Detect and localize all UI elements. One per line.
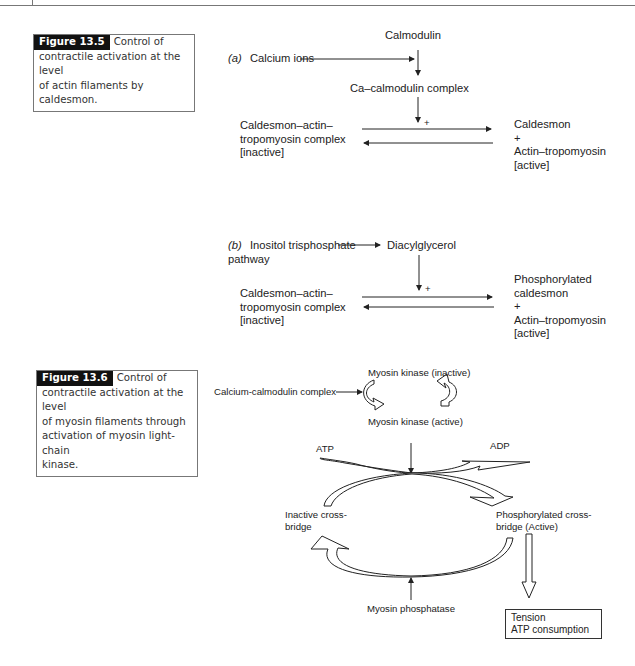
caldesmon-complex-inactive-node: Caldesmon–actin–tropomyosin complex[inac… <box>240 119 346 160</box>
phosphorylated-caldesmon-node: Phosphorylatedcaldesmon+Actin–tropomyosi… <box>514 273 606 341</box>
ca-calmodulin-complex-node: Ca–calmodulin complex <box>350 82 469 96</box>
myosin-kinase-inactive-node: Myosin kinase (inactive) <box>368 367 470 379</box>
diacylglycerol-node: Diacylglycerol <box>387 239 456 253</box>
pathway-label: pathway <box>228 253 270 267</box>
part-b-label: (b) <box>228 239 242 253</box>
plus-sign: + <box>425 283 431 295</box>
calcium-calmodulin-complex-node: Calcium-calmodulin complex <box>214 386 336 398</box>
atp-label: ATP <box>316 443 334 455</box>
adp-label: ADP <box>490 440 510 452</box>
phosphorylated-cross-bridge-node: Phosphorylated cross-bridge (Active) <box>496 509 591 533</box>
caldesmon-complex-inactive-node: Caldesmon–actin–tropomyosin complex[inac… <box>240 287 346 328</box>
part-a-label: (a) <box>228 52 242 66</box>
outcome-box: TensionATP consumption <box>505 609 602 639</box>
myosin-phosphatase-node: Myosin phosphatase <box>367 603 455 615</box>
inositol-trisphosphate-node: Inositol trisphosphate <box>250 239 356 253</box>
calmodulin-node: Calmodulin <box>385 29 441 43</box>
plus-sign: + <box>424 117 430 129</box>
inactive-cross-bridge-node: Inactive cross-bridge <box>285 509 347 533</box>
caldesmon-actin-active-node: Caldesmon+Actin–tropomyosin[active] <box>514 118 606 172</box>
myosin-kinase-active-node: Myosin kinase (active) <box>368 416 463 428</box>
calcium-ions-node: Calcium ions <box>250 52 314 66</box>
